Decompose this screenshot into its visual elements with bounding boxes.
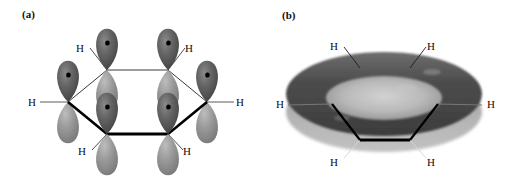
pi-cloud-upper-lobe [286,52,482,136]
h-label-left: H [276,99,284,110]
h-label-bottom-right: H [427,157,435,168]
h-label-top-right: H [185,43,193,54]
h-label-top-left: H [76,43,84,54]
panel-a: (a) [0,0,256,180]
h-label-bottom-left: H [78,146,86,157]
h-label-right: H [236,97,244,108]
h-label-bottom-left: H [330,157,338,168]
h-label-bottom-right: H [183,146,191,157]
h-label-top-left: H [330,41,338,52]
panel-a-graphic [0,0,256,180]
panel-b: (b) [256,0,513,180]
ring-bonds-front [68,102,207,134]
h-label-top-right: H [427,41,435,52]
h-label-left: H [28,97,36,108]
ring-bonds-back [68,70,207,102]
panel-b-graphic [256,0,513,180]
figure-root: (a) [0,0,513,180]
h-label-right: H [487,99,495,110]
